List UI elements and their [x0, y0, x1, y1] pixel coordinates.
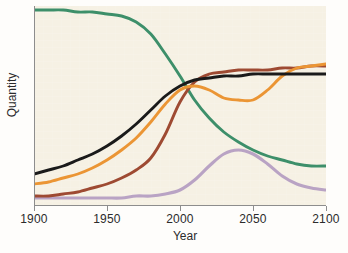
- x-tick-2050: [253, 206, 254, 211]
- y-axis-title: Quantity: [5, 60, 19, 130]
- x-axis-title-text: Year: [173, 229, 197, 243]
- x-tick-1900: [34, 206, 35, 211]
- y-axis-line: [34, 6, 35, 206]
- x-tick-label-2100: 2100: [312, 212, 340, 226]
- series-orange-curve: [34, 64, 326, 184]
- series-green-curve: [34, 10, 326, 166]
- x-axis-title: Year: [0, 229, 348, 243]
- x-tick-label-2000: 2000: [166, 212, 194, 226]
- x-tick-1950: [107, 206, 108, 211]
- chart-figure: 19001950200020502100 Year Quantity: [0, 0, 348, 253]
- x-tick-2100: [326, 206, 327, 211]
- y-axis-title-text: Quantity: [5, 73, 19, 118]
- x-tick-label-1950: 1950: [93, 212, 121, 226]
- chart-curves: [34, 6, 326, 206]
- x-tick-label-1900: 1900: [20, 212, 48, 226]
- x-tick-2000: [180, 206, 181, 211]
- x-tick-label-2050: 2050: [239, 212, 267, 226]
- plot-area: [34, 6, 326, 206]
